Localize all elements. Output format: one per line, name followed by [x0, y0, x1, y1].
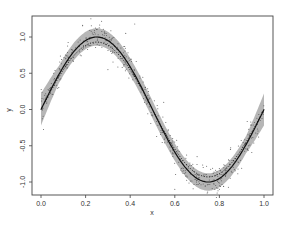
x-tick-label: 0.2: [81, 200, 91, 207]
y-axis-ticks: -1.0-0.50.00.51.0: [19, 32, 32, 188]
y-axis-label: y: [5, 108, 13, 112]
chart-canvas: 0.00.20.40.60.81.0 -1.0-0.50.00.51.0 x y: [0, 0, 288, 227]
x-tick-label: 1.0: [259, 200, 269, 207]
x-tick-label: 0.4: [125, 200, 135, 207]
y-tick-label: -0.5: [19, 140, 26, 152]
x-tick-label: 0.0: [36, 200, 46, 207]
x-axis-label: x: [150, 209, 154, 216]
x-tick-label: 0.8: [215, 200, 225, 207]
x-tick-label: 0.6: [170, 200, 180, 207]
x-axis-ticks: 0.00.20.40.60.81.0: [36, 195, 269, 207]
y-tick-label: 0.5: [19, 68, 26, 78]
y-tick-label: 0.0: [19, 105, 26, 115]
y-tick-label: 1.0: [19, 32, 26, 42]
y-tick-label: -1.0: [19, 176, 26, 188]
